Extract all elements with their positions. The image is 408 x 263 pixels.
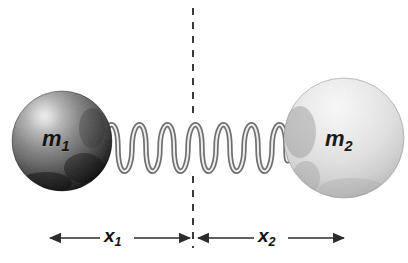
mass-left-subscript: 1 [62,138,70,154]
dimension-x2-label: x2 [258,226,276,249]
dimension-x2-symbol: x [258,225,269,246]
mass-right-subscript: 2 [345,138,353,154]
mass-right-symbol: m [325,126,345,151]
dimension-x1-subscript: 1 [115,235,122,249]
mass-right-mottle-c [318,178,386,202]
mass-left-symbol: m [42,126,62,151]
mass-left-label: m1 [42,128,70,153]
dimension-x1-label: x1 [104,226,122,249]
dimension-x1-symbol: x [104,225,115,246]
mass-right-mottle-b [292,161,320,195]
dimension-x2-subscript: 2 [269,235,276,249]
spring [104,125,296,172]
diagram-canvas: m1 m2 x1 x2 [0,0,408,263]
mass-right-label: m2 [325,128,353,153]
